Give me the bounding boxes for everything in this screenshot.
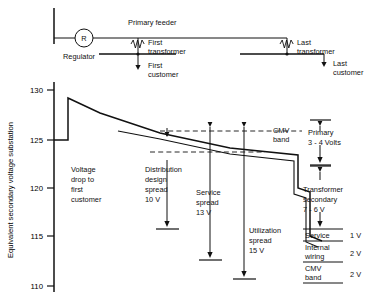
us-label-3: 15 V (249, 246, 264, 255)
y-tick-label-110: 110 (31, 282, 44, 291)
legend-row-0-value: 1 V (350, 231, 361, 240)
y-axis-group: 130 125 120 115 110 Equivalent secondary… (6, 82, 54, 292)
y-tick-label-130: 130 (30, 86, 44, 95)
figure-root: R Regulator Primary feeder First transfo… (0, 0, 383, 300)
service-spread-group: Service spread 13 V (196, 122, 222, 260)
dds-label-2: design (145, 175, 167, 184)
dds-label-3: spread (145, 185, 168, 194)
vd-label-1: Voltage (71, 165, 96, 174)
dds-label-1: Distribution (145, 165, 182, 174)
ss-up-arrow-icon (208, 122, 213, 127)
ts-up-arrow-icon (318, 167, 323, 172)
y-tick-label-115: 115 (31, 232, 44, 241)
dds-down-arrow-icon (164, 221, 169, 227)
legend-row-2-label2: band (305, 273, 321, 282)
y-tick-label-120: 120 (30, 184, 44, 193)
first-customer-label-1: First (148, 61, 162, 70)
primary-label-1: Primary (308, 128, 334, 137)
last-transformer-node (285, 52, 288, 55)
legend-row-1-value: 2 V (350, 249, 361, 258)
ts-label-3: 7 - 6 V (303, 205, 325, 214)
vd-label-2: drop to (71, 175, 94, 184)
y-axis-title: Equivalent secondary voltage substation (6, 122, 15, 258)
us-down-arrow-icon (241, 271, 246, 277)
legend-row-1-label2: wiring (304, 252, 324, 261)
transformer-secondary-group: Transformer secondary 7 - 6 V (303, 166, 344, 227)
schematic-group: R Regulator Primary feeder First transfo… (54, 8, 364, 79)
cmv-band-group: CMV band (150, 126, 302, 152)
us-up-arrow-icon (242, 122, 247, 127)
regulator-label: Regulator (63, 52, 96, 61)
us-label-2: spread (249, 236, 272, 245)
regulator-symbol: R (81, 34, 86, 43)
last-transformer-label-1: Last (297, 38, 311, 47)
first-transformer-label-1: First (148, 38, 162, 47)
ss-label-3: 13 V (196, 208, 211, 217)
first-customer-arrow-icon (135, 65, 140, 70)
ts-down-arrow-icon (317, 221, 322, 227)
dds-label-4: 10 V (145, 195, 160, 204)
vd-label-4: customer (71, 195, 102, 204)
pv-up-arrow-icon (318, 121, 323, 126)
legend-row-0-label: Service (305, 231, 330, 240)
voltage-drop-annotation: Voltage drop to first customer (71, 165, 102, 204)
first-transformer-label-2: transformer (148, 47, 186, 56)
vd-label-3: first (71, 185, 83, 194)
primary-label-2: 3 - 4 Volts (308, 138, 341, 147)
cmv-band-label-1: CMV (273, 126, 289, 135)
y-tick-label-125: 125 (30, 136, 44, 145)
distribution-design-spread-group: Distribution design spread 10 V (145, 128, 182, 229)
legend-row-2-label: CMV (305, 264, 321, 273)
legend-table: Service 1 V Internal wiring 2 V CMV band… (303, 229, 361, 283)
last-customer-label-1: Last (333, 59, 347, 68)
ss-label-1: Service (196, 188, 221, 197)
primary-feeder-label: Primary feeder (128, 18, 177, 27)
utilization-spread-group: Utilization spread 15 V (233, 122, 281, 279)
cmv-band-label-2: band (273, 135, 289, 144)
ts-label-1: Transformer (303, 185, 344, 194)
ts-label-2: secondary (303, 195, 337, 204)
pv-down-arrow-icon (317, 157, 322, 163)
last-transformer-label-2: transformer (297, 47, 335, 56)
figure-svg: R Regulator Primary feeder First transfo… (0, 0, 383, 300)
legend-row-1-label: Internal (305, 243, 330, 252)
last-customer-label-2: customer (333, 68, 364, 77)
primary-volts-group: Primary 3 - 4 Volts (308, 120, 341, 165)
legend-row-2-value: 2 V (350, 270, 361, 279)
ss-label-2: spread (196, 198, 219, 207)
first-customer-label-2: customer (148, 70, 179, 79)
us-label-1: Utilization (249, 226, 281, 235)
ss-down-arrow-icon (207, 252, 212, 258)
last-customer-arrow-icon (321, 62, 326, 67)
